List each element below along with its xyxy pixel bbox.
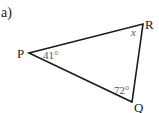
angle-q-label: 72° (114, 84, 129, 96)
vertex-label-p: P (17, 46, 24, 61)
part-label: a) (1, 5, 12, 21)
vertex-label-q: Q (134, 100, 144, 113)
triangle-diagram: a) P R Q 41° x 72° (0, 0, 159, 113)
angle-r-label: x (130, 26, 136, 38)
vertex-label-r: R (145, 17, 154, 32)
angle-p-label: 41° (43, 49, 58, 61)
